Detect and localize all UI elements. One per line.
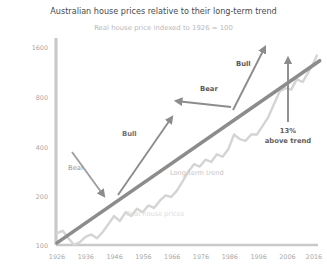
annotation-bear-1: Bear	[68, 164, 84, 172]
y-tick-1600: 1600	[32, 44, 48, 52]
x-tick-2016: 2016	[306, 253, 322, 261]
x-tick-1976: 1976	[193, 253, 209, 261]
x-tick-1956: 1956	[135, 253, 151, 261]
x-tick-1966: 1966	[164, 253, 180, 261]
x-tick-2006: 2006	[279, 253, 295, 261]
annotation-bull-2: Bull	[236, 60, 251, 68]
chart-container: Australian house prices relative to thei…	[0, 0, 327, 274]
x-tick-1926: 1926	[49, 253, 65, 261]
x-tick-1996: 1996	[250, 253, 266, 261]
y-tick-200: 200	[36, 193, 48, 201]
y-tick-100: 100	[36, 242, 48, 250]
chart-title: Australian house prices relative to thei…	[50, 6, 276, 16]
chart-subtitle: Real house price indexed to 1926 = 100	[94, 24, 233, 32]
x-tick-1986: 1986	[222, 253, 238, 261]
annotation-bull-1: Bull	[122, 130, 137, 138]
y-tick-800: 800	[36, 94, 48, 102]
callout-percent: 13%	[280, 127, 296, 135]
y-tick-400: 400	[36, 144, 48, 152]
x-tick-1946: 1946	[106, 253, 122, 261]
x-tick-1936: 1936	[78, 253, 94, 261]
annotation-bear-2: Bear	[200, 85, 218, 93]
annotation-long-term-trend: Long-term trend	[170, 169, 224, 177]
annotation-real-house-prices: Real house prices	[126, 210, 185, 218]
callout-caption: above trend	[265, 137, 312, 145]
